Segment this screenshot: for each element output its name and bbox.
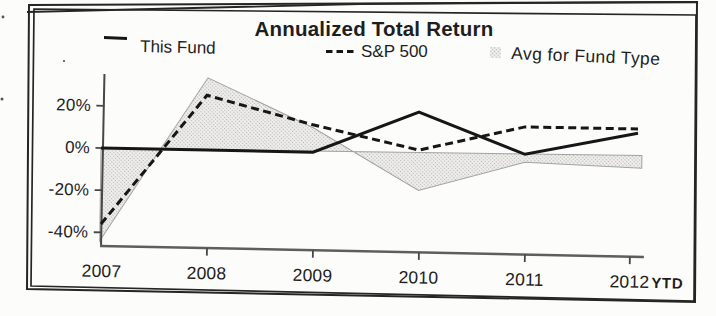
- y-axis-label: -40%: [48, 222, 89, 242]
- axes: 20% 0% -20% -40% 2007 2008 2009 2010 201…: [47, 73, 687, 293]
- scanned-document-page: Annualized Total Return This Fund S&P 50…: [0, 0, 716, 316]
- scan-artifact-dot: [63, 60, 65, 62]
- x-axis-label: 2012: [609, 271, 649, 292]
- this-fund-swatch-line-icon: [104, 38, 127, 39]
- scan-artifact-dot: [2, 16, 5, 19]
- x-axis-ytd-label: YTD: [651, 274, 683, 292]
- annualized-total-return-chart: Annualized Total Return This Fund S&P 50…: [0, 0, 716, 316]
- x-axis-label: 2008: [186, 263, 226, 284]
- legend-label-sp500: S&P 500: [361, 42, 428, 61]
- x-axis-label: 2007: [81, 261, 121, 282]
- x-axis-line: [100, 246, 644, 257]
- avg-fund-type-area: [100, 76, 643, 248]
- x-axis-label: 2009: [292, 265, 332, 286]
- legend-label-this-fund: This Fund: [140, 37, 216, 58]
- legend: This Fund S&P 500 Avg for Fund Type: [104, 37, 661, 69]
- avg-fund-type-swatch-icon: [490, 47, 501, 58]
- scan-artifact-dot: [1, 98, 4, 101]
- y-axis-label: 0%: [65, 138, 90, 157]
- y-axis-label: 20%: [56, 95, 91, 115]
- chart-title: Annualized Total Return: [255, 17, 494, 40]
- legend-label-avg-fund-type: Avg for Fund Type: [511, 43, 661, 69]
- y-axis-label: -20%: [48, 180, 89, 200]
- avg-fund-type-area-group: [100, 76, 643, 248]
- x-axis-label: 2010: [398, 267, 438, 288]
- x-axis-label: 2011: [505, 269, 544, 290]
